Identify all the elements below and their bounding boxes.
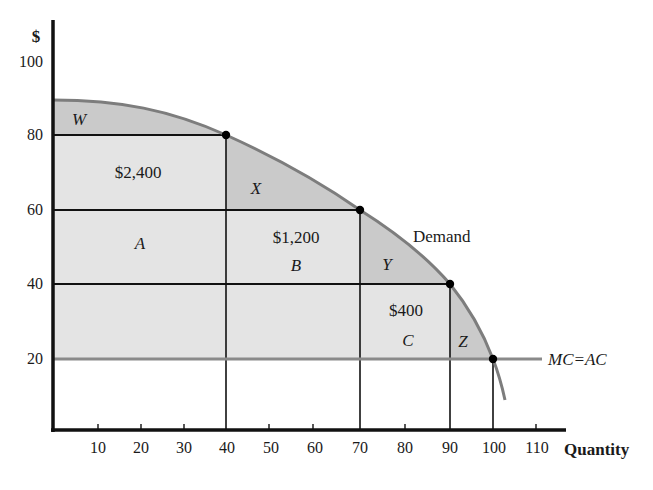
x-tick-10: 10 <box>90 439 106 456</box>
x-tick-110: 110 <box>525 439 548 456</box>
x-tick-70: 70 <box>352 439 368 456</box>
region-y <box>360 210 450 284</box>
x-tick-60: 60 <box>307 439 323 456</box>
region-x <box>226 135 360 210</box>
y-tick-60: 60 <box>27 201 43 218</box>
label-a: A <box>134 234 146 253</box>
mc-ac-label: MC=AC <box>547 350 607 369</box>
y-tick-20: 20 <box>27 350 43 367</box>
y-tick-40: 40 <box>27 275 43 292</box>
label-b: B <box>291 256 302 275</box>
price-discrimination-chart: $ 100 80 60 40 20 10 20 30 40 50 60 70 8… <box>0 0 653 490</box>
label-x: X <box>250 179 262 198</box>
point-90-40 <box>446 280 454 288</box>
label-val-a: $2,400 <box>115 163 162 182</box>
point-100-20 <box>489 355 497 363</box>
label-val-b: $1,200 <box>273 228 320 247</box>
y-axis-title: $ <box>32 27 41 46</box>
point-70-60 <box>356 206 364 214</box>
x-tick-50: 50 <box>263 439 279 456</box>
y-tick-80: 80 <box>27 126 43 143</box>
y-tick-100: 100 <box>19 53 43 70</box>
x-tick-80: 80 <box>397 439 413 456</box>
x-axis-title: Quantity <box>564 440 630 459</box>
label-val-c: $400 <box>389 301 423 320</box>
label-w: W <box>72 110 88 129</box>
label-c: C <box>402 331 414 350</box>
x-tick-30: 30 <box>176 439 192 456</box>
region-z <box>450 284 493 359</box>
x-tick-100: 100 <box>482 439 506 456</box>
x-tick-90: 90 <box>442 439 458 456</box>
x-tick-40: 40 <box>219 439 235 456</box>
label-z: Z <box>458 332 468 351</box>
demand-label: Demand <box>413 227 471 246</box>
label-y: Y <box>382 255 393 274</box>
x-tick-20: 20 <box>133 439 149 456</box>
point-40-80 <box>222 131 230 139</box>
